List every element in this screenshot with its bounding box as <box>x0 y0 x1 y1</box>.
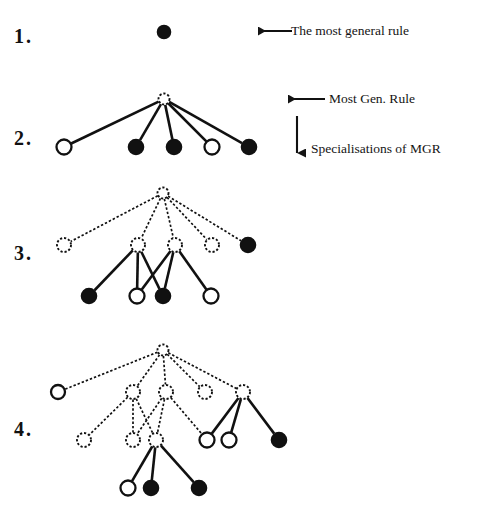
annotation-arrows-layer <box>258 31 325 153</box>
node-open <box>205 140 220 155</box>
edge-solid <box>179 251 206 289</box>
node-filled <box>156 289 171 304</box>
edge-solid <box>132 446 152 481</box>
node-dashed <box>77 433 91 447</box>
edge-dashed <box>168 196 241 241</box>
edge-dashed <box>141 198 160 238</box>
node-filled <box>241 238 256 253</box>
node-dashed <box>126 385 140 399</box>
figure-canvas: 1. 2. 3. 4. The most general rule Most G… <box>0 0 485 511</box>
node-filled <box>272 433 287 448</box>
edge-solid <box>161 446 194 482</box>
edge-dashed <box>163 356 165 385</box>
annotation-most-general-rule-label: The most general rule <box>291 24 409 38</box>
edge-dashed <box>158 399 165 432</box>
node-open <box>57 140 72 155</box>
edge-dashed <box>137 398 162 434</box>
edge-solid <box>95 250 133 290</box>
annotation-most-gen-rule-label: Most Gen. Rule <box>329 92 415 106</box>
edge-dashed <box>164 199 173 238</box>
edge-dashed <box>136 399 153 433</box>
nodes-layer <box>51 26 287 496</box>
edge-dashed <box>171 398 202 434</box>
node-dashed <box>198 385 212 399</box>
edge-dashed <box>65 352 157 389</box>
node-open <box>204 289 219 304</box>
node-filled <box>158 26 171 39</box>
annotation-specialisations-label: Specialisations of MGR <box>311 142 441 156</box>
node-dashed <box>159 385 173 399</box>
edge-solid <box>71 102 158 144</box>
specialisation-tree-diagram <box>0 0 485 511</box>
edge-solid <box>169 102 242 143</box>
edge-solid <box>248 398 275 434</box>
node-dashed <box>149 433 163 447</box>
node-open <box>222 433 237 448</box>
node-dashed <box>168 238 182 252</box>
node-open <box>130 289 145 304</box>
edge-dashed <box>89 397 127 435</box>
edge-solid <box>168 103 206 141</box>
edge-solid <box>137 252 138 288</box>
node-dashed <box>158 188 169 199</box>
node-dashed <box>126 433 140 447</box>
node-dashed <box>158 345 169 356</box>
node-dashed <box>236 385 250 399</box>
step-label-4: 4. <box>14 419 33 439</box>
node-filled <box>82 289 97 304</box>
node-open <box>51 385 65 399</box>
node-dashed <box>159 94 170 105</box>
edge-solid <box>152 447 155 480</box>
node-filled <box>192 481 207 496</box>
node-filled <box>144 481 159 496</box>
node-open <box>121 481 136 496</box>
node-dashed <box>57 238 71 252</box>
node-filled <box>129 140 144 155</box>
step-label-3: 3. <box>14 243 33 263</box>
step-label-2: 2. <box>14 128 33 148</box>
edge-solid <box>212 398 239 434</box>
edge-solid <box>165 105 172 139</box>
step-label-1: 1. <box>14 26 33 46</box>
node-dashed <box>131 238 145 252</box>
edge-dashed <box>168 353 236 389</box>
node-dashed <box>205 238 219 252</box>
edge-dashed <box>71 196 158 242</box>
node-filled <box>242 140 257 155</box>
node-open <box>200 433 215 448</box>
edge-dashed <box>167 354 199 386</box>
node-filled <box>167 140 182 155</box>
